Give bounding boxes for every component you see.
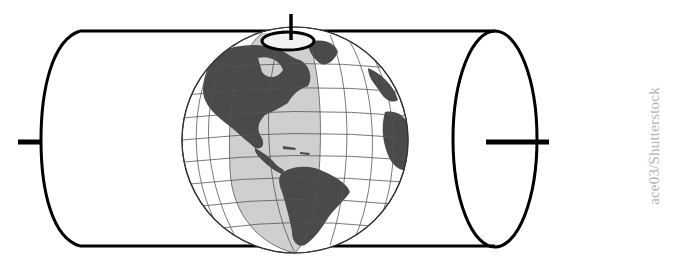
image-credit: ace03/Shutterstock (646, 87, 663, 205)
globe (182, 27, 408, 253)
cylindrical-projection-diagram (0, 0, 677, 271)
cylinder-right-end (453, 31, 537, 247)
